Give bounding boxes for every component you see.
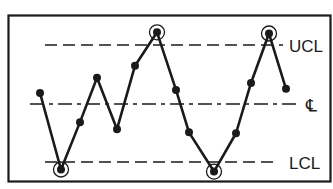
- data-point: [265, 30, 273, 38]
- lcl-label: LCL: [289, 154, 320, 173]
- center-line-label: ℄: [305, 96, 317, 115]
- data-point: [232, 129, 240, 137]
- control-chart: UCL ℄ LCL: [0, 0, 333, 189]
- data-point: [185, 128, 193, 136]
- data-point: [210, 168, 218, 176]
- data-point: [282, 85, 290, 93]
- data-point: [153, 28, 161, 36]
- data-point: [172, 86, 180, 94]
- data-point: [76, 118, 84, 126]
- data-point: [247, 79, 255, 87]
- ucl-label: UCL: [289, 37, 323, 56]
- data-point: [131, 62, 139, 70]
- data-point: [36, 89, 44, 97]
- data-point: [113, 125, 121, 133]
- data-point: [57, 166, 65, 174]
- data-point: [93, 74, 101, 82]
